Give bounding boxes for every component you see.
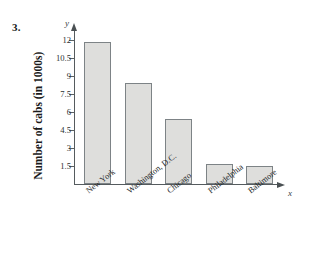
y-axis-name-label: y	[65, 19, 69, 28]
y-tick-label: 10.5	[56, 53, 71, 62]
problem-number: 3.	[12, 22, 21, 33]
y-tick-label: 6	[67, 107, 71, 116]
x-axis-name-label: x	[288, 189, 292, 198]
bar	[125, 83, 152, 184]
y-tick-label: 4.5	[60, 125, 71, 134]
y-axis-title: Number of cabs (in 1000s)	[33, 36, 45, 196]
y-tick-label: 9	[67, 71, 71, 80]
y-tick-label: 12	[62, 35, 71, 44]
plot-area: y x 1.534.567.5910.512 New YorkWashingto…	[74, 30, 286, 185]
bar-chart-figure: 3. Number of cabs (in 1000s) y x 1.534.5…	[0, 0, 316, 257]
y-axis-line: y	[74, 30, 75, 185]
y-tick-label: 3	[67, 143, 71, 152]
y-axis-arrow-icon	[71, 23, 77, 31]
y-tick-label: 7.5	[60, 89, 71, 98]
y-tick-label: 1.5	[60, 161, 71, 170]
bar	[84, 42, 111, 184]
x-axis-arrow-icon	[277, 182, 285, 188]
